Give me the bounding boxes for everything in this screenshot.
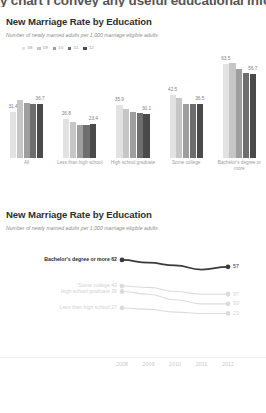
bar-value-label: 30.1 (142, 106, 151, 111)
bar-category-label: High school graduate (110, 160, 156, 172)
bar[interactable] (30, 104, 36, 158)
legend-item-10[interactable]: '10 (53, 46, 63, 50)
bar[interactable]: 35.9 (116, 105, 122, 158)
bar[interactable] (137, 113, 143, 158)
legend-swatch-icon (83, 47, 86, 50)
line-endpoint-marker[interactable] (120, 289, 125, 294)
line-endpoint-marker[interactable] (226, 301, 231, 306)
line-series-path[interactable] (122, 308, 228, 313)
bar-category-axis: AllLess than high schoolHigh school grad… (0, 160, 266, 172)
bar-group: 26.823.4 (58, 54, 102, 158)
line-series-path[interactable] (122, 292, 228, 304)
bar[interactable]: 36.5 (197, 104, 203, 158)
line-endpoint-marker[interactable] (120, 258, 125, 263)
line-chart-subtitle: Number of newly married adults per 1,000… (6, 225, 266, 231)
line-endpoint-marker[interactable] (226, 264, 231, 269)
line-series-path[interactable] (122, 260, 228, 270)
axis-rule (0, 357, 266, 358)
legend-item-label: '10 (58, 46, 64, 50)
bar-group: 31.436.7 (5, 54, 49, 158)
bar[interactable]: 26.8 (63, 119, 69, 159)
legend-item-09[interactable]: '09 (37, 46, 47, 50)
bar-chart-title: New Marriage Rate by Education (6, 16, 266, 27)
legend-item-12[interactable]: '12 (83, 46, 93, 50)
bar-group: 42.536.5 (164, 54, 208, 158)
legend-swatch-icon (68, 47, 71, 50)
bar-value-label: 63.5 (221, 56, 230, 61)
bar-group: 63.556.7 (217, 54, 261, 158)
legend-swatch-icon (22, 47, 25, 50)
line-end-value-label: 23 (233, 311, 239, 316)
bar[interactable] (70, 122, 76, 158)
bar[interactable]: 42.5 (170, 95, 176, 158)
bar[interactable] (183, 104, 189, 158)
line-end-value-label: 37 (233, 292, 239, 297)
bar-category-label: Bachelor's degree or more (216, 160, 262, 172)
bar[interactable]: 63.5 (223, 64, 229, 158)
bar[interactable] (17, 100, 23, 158)
chart-page: y chart I convey any useful educational … (0, 0, 266, 413)
line-endpoint-marker[interactable] (226, 311, 231, 316)
bar[interactable]: 36.7 (37, 104, 43, 159)
bar-value-label: 42.5 (168, 87, 177, 92)
line-series-label: Bachelor's degree or more 62 (44, 257, 117, 262)
legend-swatch-icon (37, 47, 40, 50)
bar-category-label: Some college (163, 160, 209, 172)
year-tick-label: 2010 (165, 361, 185, 367)
cutoff-headline: y chart I convey any useful educational … (0, 0, 266, 7)
bar[interactable]: 23.4 (90, 124, 96, 159)
bar[interactable]: 56.7 (250, 74, 256, 158)
bar[interactable]: 30.1 (143, 114, 149, 159)
bar-group: 35.930.1 (111, 54, 155, 158)
bar-value-label: 26.8 (62, 111, 71, 116)
bar-value-label: 35.9 (115, 97, 124, 102)
line-end-value-label: 30 (233, 301, 239, 306)
bar-plot-area: 31.436.726.823.435.930.142.536.563.556.7 (0, 54, 266, 158)
line-chart-title: New Marriage Rate by Education (6, 209, 266, 220)
bar[interactable]: 31.4 (10, 112, 16, 159)
line-end-value-label: 57 (233, 264, 239, 269)
bar[interactable] (123, 109, 129, 158)
bar-value-label: 23.4 (89, 116, 98, 121)
legend-item-label: '08 (27, 46, 33, 50)
bar[interactable] (83, 125, 89, 159)
bar-category-label: All (4, 160, 50, 172)
line-endpoint-marker[interactable] (120, 306, 125, 311)
year-tick-label: 2012 (218, 361, 238, 367)
bar[interactable] (24, 103, 30, 159)
legend-swatch-icon (53, 47, 56, 50)
line-endpoint-marker[interactable] (120, 284, 125, 289)
line-series-label: Less than high school 27 (60, 305, 117, 310)
bar-chart-block: New Marriage Rate by Education Number of… (0, 16, 266, 172)
year-tick-label: 2011 (192, 361, 212, 367)
line-chart-block: New Marriage Rate by Education Number of… (0, 209, 266, 353)
legend-item-label: '12 (88, 46, 94, 50)
line-plot-area: Bachelor's degree or more 6257Some colle… (0, 241, 266, 353)
line-endpoint-marker[interactable] (226, 292, 231, 297)
bar-value-label: 36.7 (36, 96, 45, 101)
bar-chart-legend: '08'09'10'11'12 (22, 46, 266, 50)
bar[interactable] (229, 63, 235, 159)
bar[interactable] (243, 73, 249, 158)
bar[interactable] (236, 69, 242, 158)
bar[interactable] (190, 104, 196, 158)
year-tick-label: 2008 (112, 361, 132, 367)
legend-item-08[interactable]: '08 (22, 46, 32, 50)
bar[interactable] (176, 98, 182, 158)
line-series-label: High school graduate 39 (61, 289, 117, 294)
bar-chart-subtitle: Number of newly married adults per 1,000… (6, 32, 266, 38)
bar-value-label: 56.7 (248, 66, 257, 71)
legend-item-label: '09 (42, 46, 48, 50)
bar[interactable] (77, 125, 83, 158)
legend-item-11[interactable]: '11 (68, 46, 78, 50)
year-tick-label: 2009 (139, 361, 159, 367)
bar-value-label: 36.5 (195, 96, 204, 101)
bar[interactable] (130, 112, 136, 158)
legend-item-label: '11 (73, 46, 78, 50)
bar-category-label: Less than high school (57, 160, 103, 172)
line-series-svg (0, 241, 266, 353)
